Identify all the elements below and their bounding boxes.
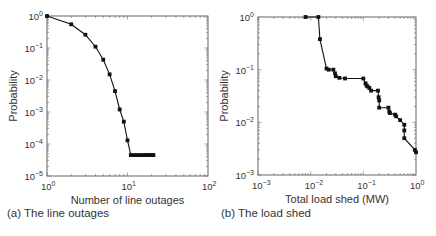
plot-frame <box>47 16 208 176</box>
y-axis-label: Probability <box>218 70 230 122</box>
caption-line-outages: (a) The line outages <box>7 207 109 219</box>
chart-panel-line-outages: 10010110210010−110−210−310−410−5Number o… <box>0 0 218 236</box>
y-tick-label: 10−1 <box>24 42 43 54</box>
x-tick-label: 100 <box>41 180 56 192</box>
y-tick-label: 10−1 <box>235 64 254 76</box>
y-axis-label: Probability <box>7 70 19 122</box>
y-tick-label: 10−3 <box>24 106 43 118</box>
x-tick-label: 10−2 <box>305 179 324 191</box>
x-tick-label: 10−3 <box>252 179 271 191</box>
series-line <box>306 17 416 152</box>
x-tick-label: 100 <box>410 179 425 191</box>
y-tick-label: 10−4 <box>24 138 43 150</box>
load-shed-plot: 10−310−210−110010010−110−210−3Total load… <box>218 0 436 236</box>
series-line <box>47 16 153 155</box>
chart-panel-load-shed: 10−310−210−110010010−110−210−3Total load… <box>218 0 436 236</box>
x-tick-label: 101 <box>122 180 137 192</box>
x-tick-label: 10−1 <box>357 179 376 191</box>
y-tick-label: 10−2 <box>235 116 254 128</box>
x-axis-label: Total load shed (MW) <box>285 193 389 205</box>
x-tick-label: 102 <box>202 180 217 192</box>
series-markers <box>45 14 155 157</box>
series-markers <box>304 15 418 154</box>
y-tick-label: 10−2 <box>24 74 43 86</box>
x-axis-label: Number of line outages <box>71 194 185 206</box>
axis-ticks <box>47 16 208 176</box>
axis-ticks <box>258 17 416 175</box>
y-tick-label: 100 <box>240 11 255 23</box>
line-outages-plot: 10010110210010−110−210−310−410−5Number o… <box>0 0 218 236</box>
y-tick-label: 100 <box>29 10 44 22</box>
caption-load-shed: (b) The load shed <box>221 207 311 219</box>
plot-frame <box>258 17 416 175</box>
